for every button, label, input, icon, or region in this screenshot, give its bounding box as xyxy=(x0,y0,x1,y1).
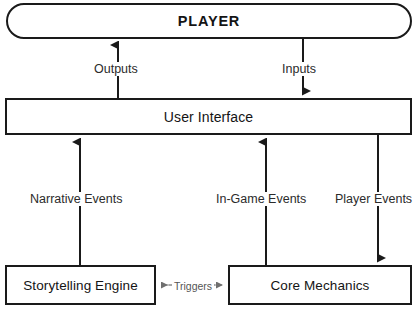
node-storytelling-engine[interactable]: Storytelling Engine xyxy=(5,265,156,305)
edge-label-ingame-events: In-Game Events xyxy=(214,192,308,206)
diagram-canvas: PLAYER User Interface Storytelling Engin… xyxy=(0,0,418,309)
node-core-mechanics-label: Core Mechanics xyxy=(271,278,370,293)
edge-label-triggers: Triggers xyxy=(172,279,214,293)
node-user-interface-label: User Interface xyxy=(164,109,253,125)
edge-label-outputs: Outputs xyxy=(92,62,140,76)
node-player[interactable]: PLAYER xyxy=(6,3,412,39)
node-core-mechanics[interactable]: Core Mechanics xyxy=(228,265,412,305)
edge-label-inputs: Inputs xyxy=(280,62,318,76)
edge-label-player-events: Player Events xyxy=(333,192,414,206)
diagram-connectors xyxy=(0,0,418,309)
node-player-label: PLAYER xyxy=(178,13,240,29)
edge-label-narrative-events: Narrative Events xyxy=(28,192,124,206)
node-storytelling-engine-label: Storytelling Engine xyxy=(23,278,137,293)
node-user-interface[interactable]: User Interface xyxy=(5,98,412,135)
